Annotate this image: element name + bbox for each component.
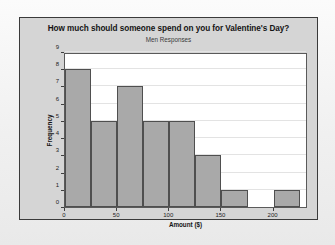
- x-tick-label: 200: [268, 212, 278, 219]
- bar: [117, 86, 143, 207]
- plot-area: [64, 53, 307, 208]
- x-tick: [220, 208, 221, 211]
- y-tick-label: 9: [56, 44, 59, 50]
- bar: [274, 190, 300, 207]
- y-tick-label: 8: [56, 61, 59, 67]
- x-tick-label: 0: [62, 212, 65, 219]
- x-axis-title: Amount ($): [64, 221, 307, 228]
- bar: [195, 155, 221, 207]
- y-tick-label: 6: [56, 96, 59, 102]
- bar: [91, 121, 117, 207]
- y-tick-label: 3: [56, 147, 59, 153]
- page-background: How much should someone spend on you for…: [0, 0, 335, 245]
- y-tick-label: 7: [56, 78, 59, 84]
- bar: [221, 190, 247, 207]
- x-tick-label: 50: [113, 212, 120, 219]
- y-axis-title: Frequency: [45, 53, 55, 208]
- y-tick-label: 2: [56, 165, 59, 171]
- y-axis-title-text: Frequency: [47, 115, 54, 147]
- bars-layer: [65, 54, 306, 207]
- x-tick: [116, 208, 117, 211]
- chart-panel: How much should someone spend on you for…: [19, 17, 318, 220]
- x-tick: [64, 208, 65, 211]
- x-tick-label: 150: [215, 212, 225, 219]
- x-tick-label: 100: [163, 212, 173, 219]
- bar: [169, 121, 195, 207]
- chart-title-block: How much should someone spend on you for…: [20, 23, 317, 44]
- bar: [65, 69, 91, 207]
- chart-title: How much should someone spend on you for…: [20, 23, 317, 34]
- x-tick: [168, 208, 169, 211]
- y-tick-label: 5: [56, 113, 59, 119]
- x-tick: [273, 208, 274, 211]
- gridline: [65, 51, 306, 52]
- y-tick-label: 1: [56, 182, 59, 188]
- y-tick-label: 4: [56, 130, 59, 136]
- y-tick-label: 0: [56, 199, 59, 205]
- bar: [143, 121, 169, 207]
- chart-subtitle: Men Responses: [20, 35, 317, 44]
